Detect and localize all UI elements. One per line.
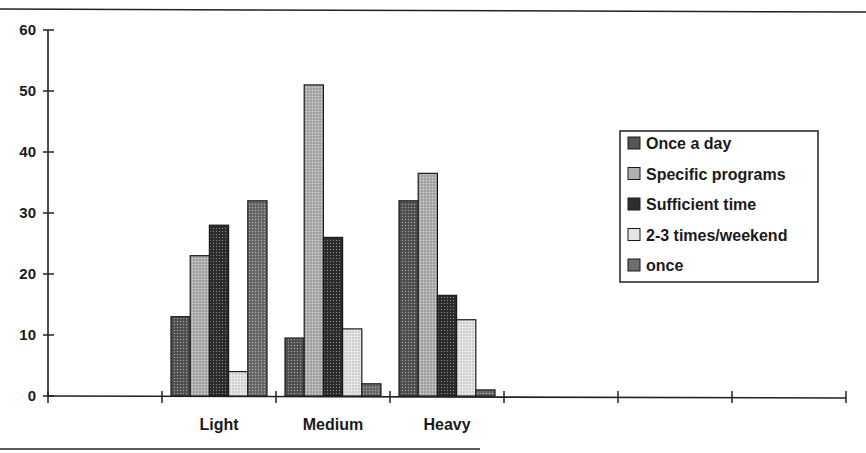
y-tick-label: 30 (19, 204, 36, 221)
bars (171, 85, 495, 396)
y-tick-label: 40 (19, 143, 36, 160)
legend-swatch (628, 229, 640, 241)
x-category-label: Heavy (423, 416, 470, 433)
bar (209, 225, 228, 396)
x-axis: LightMediumHeavy (48, 391, 846, 433)
bar (190, 256, 209, 396)
legend-swatch (628, 137, 640, 149)
bar (229, 372, 248, 396)
y-tick-label: 60 (19, 21, 36, 38)
x-category-label: Light (199, 416, 239, 433)
bar (171, 317, 190, 396)
bar (248, 201, 267, 396)
bar (323, 237, 342, 396)
legend-swatch (628, 259, 640, 271)
bar (304, 85, 323, 396)
y-tick-label: 50 (19, 82, 36, 99)
top-border (0, 9, 866, 12)
legend-label: Specific programs (646, 166, 786, 183)
bar (476, 390, 495, 396)
legend-label: once (646, 257, 683, 274)
bar (343, 329, 362, 396)
bar-chart: 0102030405060 LightMediumHeavy Once a da… (0, 0, 866, 453)
bar (457, 320, 476, 396)
bar (362, 384, 381, 396)
y-axis: 0102030405060 (19, 21, 54, 404)
bar (285, 338, 304, 396)
legend: Once a daySpecific programsSufficient ti… (620, 131, 818, 282)
y-tick-label: 20 (19, 265, 36, 282)
legend-label: Sufficient time (646, 196, 756, 213)
legend-swatch (628, 198, 640, 210)
x-category-label: Medium (303, 416, 363, 433)
bar (418, 173, 437, 396)
legend-swatch (628, 168, 640, 180)
legend-label: Once a day (646, 135, 731, 152)
bar (399, 201, 418, 396)
y-tick-label: 0 (28, 387, 36, 404)
legend-label: 2-3 times/weekend (646, 227, 787, 244)
y-tick-label: 10 (19, 326, 36, 343)
bar (437, 295, 456, 396)
